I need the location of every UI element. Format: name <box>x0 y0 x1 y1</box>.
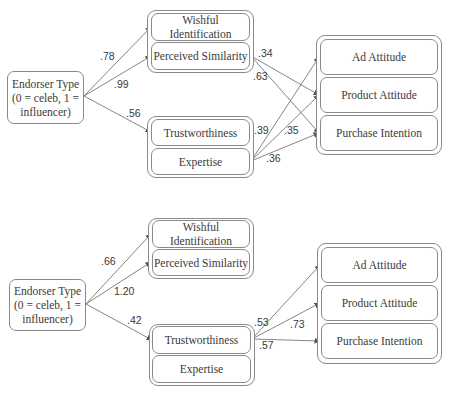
trustworthiness-box: Trustworthiness <box>152 326 251 354</box>
expertise-label: Expertise <box>180 362 223 376</box>
path-coefficient: .56 <box>126 107 141 119</box>
path-coefficient: .39 <box>254 124 269 136</box>
wishful-identification-label: Wishful Identification <box>163 220 239 248</box>
trustworthiness-label: Trustworthiness <box>164 126 238 140</box>
endorser-line-3: influencer) <box>20 105 70 119</box>
endorser-line-2: (0 = celeb, 1 = <box>14 298 81 312</box>
purchase-intention-label: Purchase Intention <box>336 126 422 140</box>
purchase-intention-box: Purchase Intention <box>320 115 438 151</box>
product-attitude-box: Product Attitude <box>320 77 438 113</box>
arrow-endorser-to-similarity <box>86 262 151 304</box>
expertise-label: Expertise <box>179 155 222 169</box>
ad-attitude-label: Ad Attitude <box>352 50 406 64</box>
perceived-similarity-label: Perceived Similarity <box>154 256 248 270</box>
expertise-box: Expertise <box>151 148 250 175</box>
path-coefficient: .34 <box>258 47 273 59</box>
perceived-similarity-box: Perceived Similarity <box>152 249 250 276</box>
arrow-expertise-to-purchase <box>251 133 319 161</box>
arrow-endorser-to-similarity <box>84 56 151 96</box>
endorser-line-3: influencer) <box>22 312 72 326</box>
endorser-line-2: (0 = celeb, 1 = <box>12 91 79 105</box>
path-coefficient: .73 <box>290 318 305 330</box>
ad-attitude-label: Ad Attitude <box>353 258 407 272</box>
wishful-identification-box: Wishful Identification <box>151 13 250 41</box>
trustworthiness-label: Trustworthiness <box>165 333 239 347</box>
expertise-box: Expertise <box>152 355 251 383</box>
ad-attitude-box: Ad Attitude <box>320 39 438 75</box>
endorser-type-box: Endorser Type (0 = celeb, 1 = influencer… <box>9 279 86 331</box>
endorser-type-box: Endorser Type (0 = celeb, 1 = influencer… <box>7 71 84 124</box>
purchase-intention-box: Purchase Intention <box>321 323 438 359</box>
perceived-similarity-label: Perceived Similarity <box>153 49 247 63</box>
ad-attitude-box: Ad Attitude <box>321 247 438 283</box>
path-coefficient: .99 <box>114 78 129 90</box>
product-attitude-label: Product Attitude <box>341 88 417 102</box>
wishful-identification-box: Wishful Identification <box>152 220 250 248</box>
trustworthiness-box: Trustworthiness <box>151 119 250 146</box>
arrow-endorser-to-trust <box>86 304 152 340</box>
path-coefficient: .63 <box>253 70 268 82</box>
endorser-line-1: Endorser Type <box>12 77 79 91</box>
path-coefficient: .66 <box>101 255 116 267</box>
product-attitude-label: Product Attitude <box>342 296 418 310</box>
path-coefficient: 1.20 <box>114 285 134 297</box>
perceived-similarity-box: Perceived Similarity <box>151 42 250 70</box>
path-coefficient: .35 <box>284 124 299 136</box>
path-coefficient: .42 <box>127 314 142 326</box>
path-coefficient: .78 <box>100 50 115 62</box>
arrow-similarity-to-purchase <box>251 56 319 133</box>
wishful-identification-label: Wishful Identification <box>162 13 239 41</box>
endorser-line-1: Endorser Type <box>14 284 81 298</box>
purchase-intention-label: Purchase Intention <box>337 334 423 348</box>
path-coefficient: .53 <box>254 316 269 328</box>
path-coefficient: .57 <box>259 339 274 351</box>
product-attitude-box: Product Attitude <box>321 285 438 321</box>
path-coefficient: .36 <box>266 152 281 164</box>
